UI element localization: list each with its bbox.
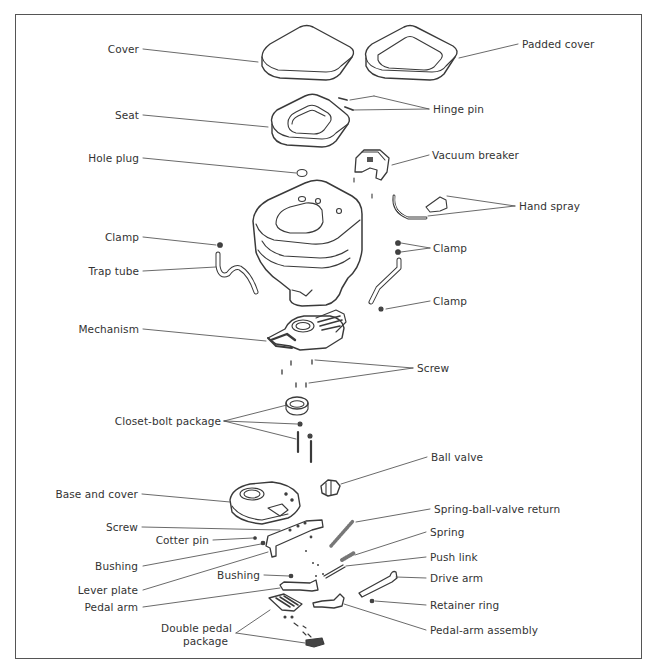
label-vacuum-breaker: Vacuum breaker bbox=[432, 149, 519, 161]
ball-valve-part bbox=[321, 480, 340, 496]
label-clamp-right-lower: Clamp bbox=[433, 295, 467, 307]
label-mechanism: Mechanism bbox=[78, 323, 139, 335]
vacuum-breaker-part bbox=[354, 150, 389, 198]
label-closet-bolt-package: Closet-bolt package bbox=[115, 415, 221, 427]
trap-tube-part bbox=[218, 254, 256, 292]
label-drive-arm: Drive arm bbox=[430, 572, 483, 584]
lever-plate-part bbox=[266, 520, 323, 557]
label-base-and-cover: Base and cover bbox=[55, 488, 138, 500]
label-lever-plate: Lever plate bbox=[78, 584, 138, 596]
label-seat: Seat bbox=[115, 109, 139, 121]
clamp-right-upper-part bbox=[396, 241, 401, 255]
spring-ball-valve-return-part bbox=[331, 521, 353, 546]
right-tube-part bbox=[371, 260, 399, 302]
bushing-part bbox=[261, 541, 265, 545]
clamp-right-lower-part bbox=[379, 307, 383, 311]
label-spring: Spring bbox=[430, 526, 464, 538]
toilet-body-part bbox=[253, 180, 362, 306]
cotter-pin-part bbox=[254, 537, 257, 540]
label-bushing: Bushing bbox=[95, 560, 138, 572]
label-double-pedal-line2: package bbox=[183, 635, 228, 647]
label-double-pedal-line1: Double pedal bbox=[161, 622, 232, 634]
label-bushing-2: Bushing bbox=[217, 569, 260, 581]
spring-part bbox=[342, 553, 354, 560]
screw-set-part bbox=[282, 360, 312, 387]
label-hinge-pin: Hinge pin bbox=[433, 103, 484, 115]
label-spring-ball-valve-return: Spring-ball-valve return bbox=[434, 503, 560, 515]
base-and-cover-part bbox=[230, 482, 300, 524]
mechanism-part bbox=[268, 310, 346, 350]
label-hole-plug: Hole plug bbox=[88, 152, 139, 164]
bushing-2-part bbox=[289, 574, 293, 578]
drive-arm-part bbox=[359, 572, 397, 598]
padded-cover-part bbox=[366, 26, 457, 81]
seat-part bbox=[272, 94, 350, 147]
label-trap-tube: Trap tube bbox=[89, 265, 139, 277]
label-clamp-left: Clamp bbox=[105, 231, 139, 243]
label-screw-right: Screw bbox=[417, 362, 449, 374]
label-padded-cover: Padded cover bbox=[522, 38, 594, 50]
clamp-left-part bbox=[218, 243, 223, 248]
hole-plug-part bbox=[297, 170, 307, 177]
cover-part bbox=[262, 26, 354, 81]
label-pedal-arm-assembly: Pedal-arm assembly bbox=[430, 624, 538, 636]
push-link-part bbox=[324, 565, 345, 578]
pedal-arm-part bbox=[280, 580, 318, 591]
label-cotter-pin: Cotter pin bbox=[156, 534, 209, 546]
small-hardware bbox=[305, 536, 324, 577]
label-clamp-right-upper: Clamp bbox=[433, 242, 467, 254]
label-cover: Cover bbox=[108, 43, 139, 55]
retainer-ring-part bbox=[370, 599, 374, 603]
label-retainer-ring: Retainer ring bbox=[430, 599, 499, 611]
label-pedal-arm: Pedal arm bbox=[85, 601, 138, 613]
label-screw-left: Screw bbox=[106, 521, 138, 533]
label-hand-spray: Hand spray bbox=[519, 200, 580, 212]
label-push-link: Push link bbox=[430, 551, 478, 563]
pedal-arm-assembly-part bbox=[313, 594, 344, 608]
closet-bolt-package-part bbox=[286, 397, 312, 462]
label-ball-valve: Ball valve bbox=[431, 451, 483, 463]
